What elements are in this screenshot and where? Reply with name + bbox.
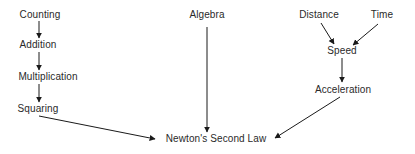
- node-algebra: Algebra: [189, 10, 224, 20]
- node-counting: Counting: [20, 10, 61, 20]
- node-speed: Speed: [327, 46, 356, 56]
- node-time: Time: [371, 10, 393, 20]
- node-squaring: Squaring: [18, 104, 59, 114]
- arrow-distance-to-speed: [321, 23, 334, 44]
- arrow-acceleration-to-newton: [275, 97, 340, 138]
- node-multiplication: Multiplication: [18, 72, 77, 82]
- arrow-squaring-to-newton: [39, 116, 155, 139]
- node-addition: Addition: [20, 40, 57, 50]
- node-acceleration: Acceleration: [315, 85, 371, 95]
- arrow-time-to-speed: [353, 24, 378, 45]
- node-distance: Distance: [299, 10, 339, 20]
- concept-diagram: Counting Addition Multiplication Squarin…: [0, 0, 415, 154]
- node-newtons-second-law: Newton's Second Law: [166, 134, 267, 144]
